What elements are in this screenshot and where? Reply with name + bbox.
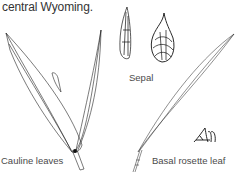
cauline-leaves-label: Cauline leaves [1,155,63,166]
basal-rosette-leaf-label: Basal rosette leaf [152,155,225,166]
artist-signature [194,128,215,142]
sepal-drawing [120,7,174,62]
basal-rosette-leaf-drawing [133,34,234,172]
sepal-label: Sepal [129,72,153,83]
cauline-leaves-drawing [6,30,101,170]
